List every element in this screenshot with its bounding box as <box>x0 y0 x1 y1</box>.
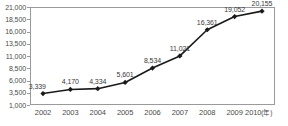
x-axis-tick-text: 2008 <box>199 108 215 117</box>
data-point-value-label: 16,361 <box>197 19 218 26</box>
y-axis-tick-label: 21,000 <box>0 4 26 11</box>
y-axis-tick-label: 6,000 <box>0 77 26 84</box>
x-axis-tick-text: 2010 <box>245 108 261 117</box>
y-axis-tick-mark <box>27 56 30 57</box>
x-axis-tick-text: 2003 <box>62 108 78 117</box>
x-axis-tick-text: 2004 <box>90 108 106 117</box>
y-axis-tick-mark <box>27 68 30 69</box>
x-axis-unit-label: (年) <box>261 109 272 116</box>
data-point-value-label: 3,339 <box>29 83 46 90</box>
x-axis-tick-text: 2007 <box>172 108 188 117</box>
y-axis-tick-mark <box>27 44 30 45</box>
line-chart: 21,00018,50016,00013,50011,0008,5006,000… <box>0 0 288 126</box>
y-axis-tick-label: 13,500 <box>0 40 26 47</box>
x-axis-tick-label: 2002 <box>35 108 51 117</box>
x-axis-tick-label: 2010(年) <box>245 108 272 117</box>
y-axis-tick-label: 18,500 <box>0 16 26 23</box>
x-axis-tick-label: 2007 <box>172 108 188 117</box>
x-axis-tick-label: 2003 <box>62 108 78 117</box>
y-axis-tick-mark <box>27 32 30 33</box>
x-axis-tick-text: 2006 <box>144 108 160 117</box>
x-axis-tick-label: 2005 <box>117 108 133 117</box>
y-axis-tick-label: 16,000 <box>0 28 26 35</box>
y-axis-tick-mark <box>27 19 30 20</box>
data-point-value-label: 4,170 <box>62 78 79 85</box>
y-axis-tick-label: 3,500 <box>0 89 26 96</box>
x-axis-tick-text: 2009 <box>226 108 242 117</box>
x-axis: 200220032004200520062007200820092010(年) <box>0 108 288 122</box>
y-axis-tick-mark <box>27 105 30 106</box>
data-point-value-label: 20,155 <box>252 0 273 7</box>
x-axis-tick-text: 2002 <box>35 108 51 117</box>
x-axis-tick-label: 2004 <box>90 108 106 117</box>
y-axis-tick-label: 8,500 <box>0 65 26 72</box>
data-point-value-label: 11,021 <box>170 45 190 52</box>
x-axis-tick-text: 2005 <box>117 108 133 117</box>
data-point-value-label: 4,334 <box>89 78 106 85</box>
x-axis-tick-label: 2006 <box>144 108 160 117</box>
x-axis-tick-label: 2008 <box>199 108 215 117</box>
y-axis-tick-mark <box>27 7 30 8</box>
plot-area <box>30 7 275 105</box>
data-point-value-label: 19,052 <box>224 6 245 13</box>
data-point-value-label: 8,534 <box>144 57 161 64</box>
y-axis-tick-mark <box>27 81 30 82</box>
y-axis-tick-label: 11,000 <box>0 53 26 60</box>
data-point-value-label: 5,601 <box>117 71 134 78</box>
x-axis-tick-label: 2009 <box>226 108 242 117</box>
y-axis-tick-mark <box>27 93 30 94</box>
